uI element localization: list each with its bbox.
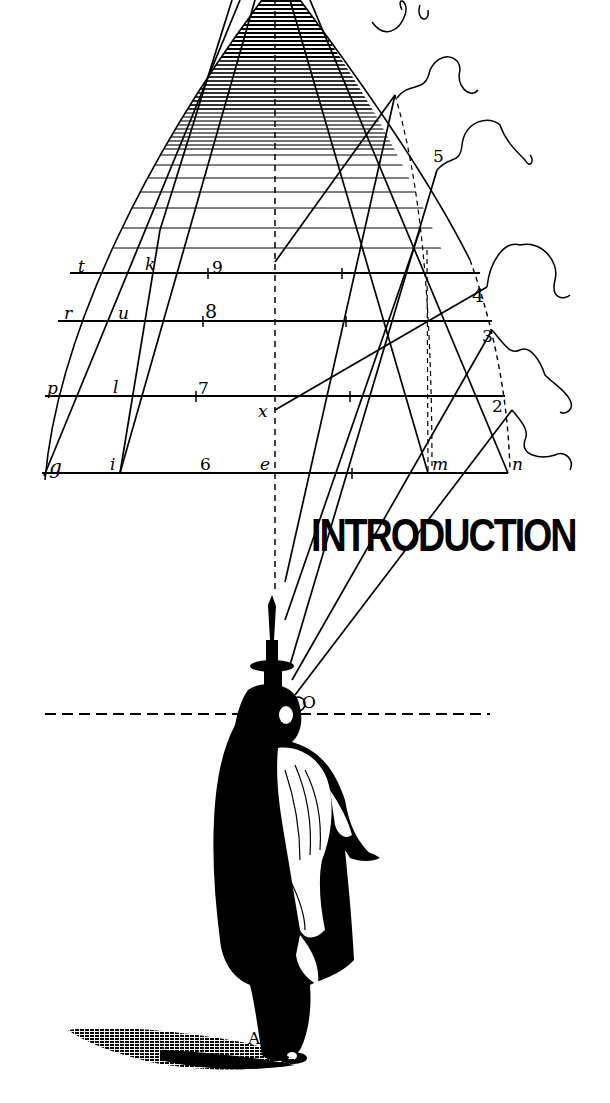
figure-candlestick — [250, 595, 294, 690]
figure-robed-man — [213, 684, 380, 1064]
label-p: p — [47, 380, 58, 397]
label-t: t — [78, 258, 85, 275]
number-3: 3 — [482, 328, 493, 345]
number-6: 6 — [200, 456, 211, 473]
number-8: 8 — [205, 302, 217, 321]
smoke-squiggles — [372, 1, 571, 470]
label-g: g — [49, 457, 62, 477]
label-A: A — [248, 1030, 260, 1047]
number-2: 2 — [492, 398, 503, 415]
label-k: k — [145, 256, 155, 273]
label-e: e — [260, 456, 270, 473]
label-r: r — [64, 305, 72, 322]
number-9: 9 — [212, 259, 223, 276]
dome-hatching — [0, 0, 610, 248]
label-m: m — [432, 456, 448, 473]
page-title: INTRODUCTION — [311, 512, 576, 558]
label-n: n — [512, 456, 523, 473]
number-5: 5 — [433, 148, 444, 165]
label-i: i — [110, 456, 115, 473]
label-l: l — [113, 379, 118, 396]
number-4: 4 — [472, 286, 484, 305]
inner-dashed-arc — [395, 95, 432, 470]
label-O: O — [302, 692, 316, 712]
label-u: u — [118, 305, 129, 322]
label-x: x — [258, 403, 268, 420]
number-7: 7 — [198, 380, 209, 397]
